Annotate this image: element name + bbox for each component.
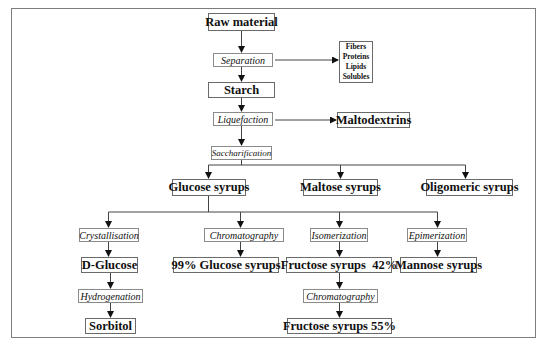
node-maltose-syrups: Maltose syrups [303, 179, 378, 196]
node-d-glucose: D-Glucose [81, 257, 138, 273]
node-sorbitol: Sorbitol [85, 318, 136, 334]
node-mannose-syrups: Mannose syrups [400, 257, 477, 273]
node-chromatography-2: Chromatography [303, 289, 378, 303]
node-hydrogenation: Hydrogenation [78, 289, 143, 303]
node-saccharification: Saccharification [211, 146, 272, 160]
node-fructose-42: Fructose syrups 42% [286, 257, 392, 273]
node-liquefaction: Liquefaction [213, 112, 273, 126]
node-maltodextrins: Maltodextrins [337, 112, 410, 128]
byproduct-solubles: Solubles [343, 72, 370, 82]
node-crystallisation: Crystallisation [79, 228, 139, 242]
byproduct-lipids: Lipids [346, 62, 366, 72]
node-isomerization: Isomerization [310, 228, 368, 242]
glucose-suffix: -Glucose [91, 258, 138, 273]
d-prefix: D [82, 258, 91, 273]
node-starch: Starch [208, 82, 275, 98]
byproduct-fibers: Fibers [346, 42, 366, 52]
node-raw-material: Raw material [208, 13, 275, 31]
node-epimerization: Epimerization [407, 228, 467, 242]
node-separation: Separation [213, 53, 273, 67]
node-glucose-99: 99% Glucose syrups [173, 257, 279, 273]
node-byproducts: Fibers Proteins Lipids Solubles [339, 41, 373, 83]
node-oligomeric-syrups: Oligomeric syrups [426, 179, 513, 196]
byproduct-proteins: Proteins [343, 52, 370, 62]
node-chromatography-1: Chromatography [204, 228, 284, 242]
node-glucose-syrups: Glucose syrups [172, 179, 246, 196]
node-fructose-55: Fructose syrups 55% [287, 318, 392, 334]
